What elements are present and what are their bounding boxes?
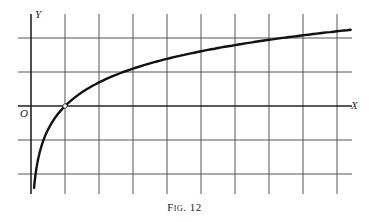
origin-label: O: [20, 107, 28, 119]
figure-caption: Fig. 12: [0, 201, 369, 213]
point-1-0: [63, 104, 67, 108]
y-axis-label: Y: [35, 8, 41, 20]
x-axis-label: X: [351, 99, 358, 111]
log-curve-figure: [0, 0, 369, 222]
